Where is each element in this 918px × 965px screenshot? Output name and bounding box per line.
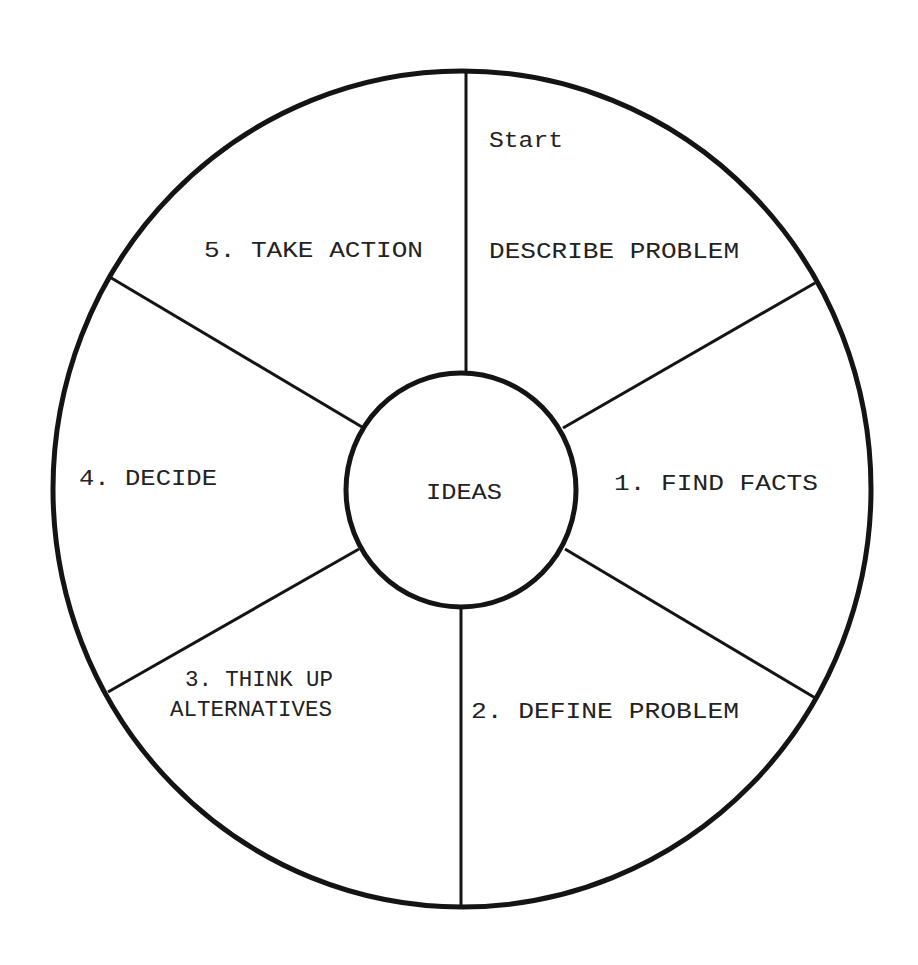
segment-think-up-line2: ALTERNATIVES	[170, 698, 332, 723]
spoke-lower-right	[565, 549, 817, 699]
spoke-upper-left	[108, 276, 362, 427]
center-label-ideas: IDEAS	[426, 481, 502, 506]
segment-take-action: 5. TAKE ACTION	[204, 239, 423, 264]
segment-find-facts: 1. FIND FACTS	[614, 472, 818, 497]
segment-define-problem: 2. DEFINE PROBLEM	[471, 700, 739, 725]
segment-describe-problem: DESCRIBE PROBLEM	[489, 240, 739, 265]
spoke-upper-right	[563, 283, 815, 428]
start-note: Start	[489, 129, 563, 154]
segment-decide: 4. DECIDE	[79, 467, 217, 492]
process-wheel-diagram: Start DESCRIBE PROBLEM 1. FIND FACTS 2. …	[0, 0, 918, 965]
segment-think-up-line1: 3. THINK UP	[185, 668, 333, 693]
